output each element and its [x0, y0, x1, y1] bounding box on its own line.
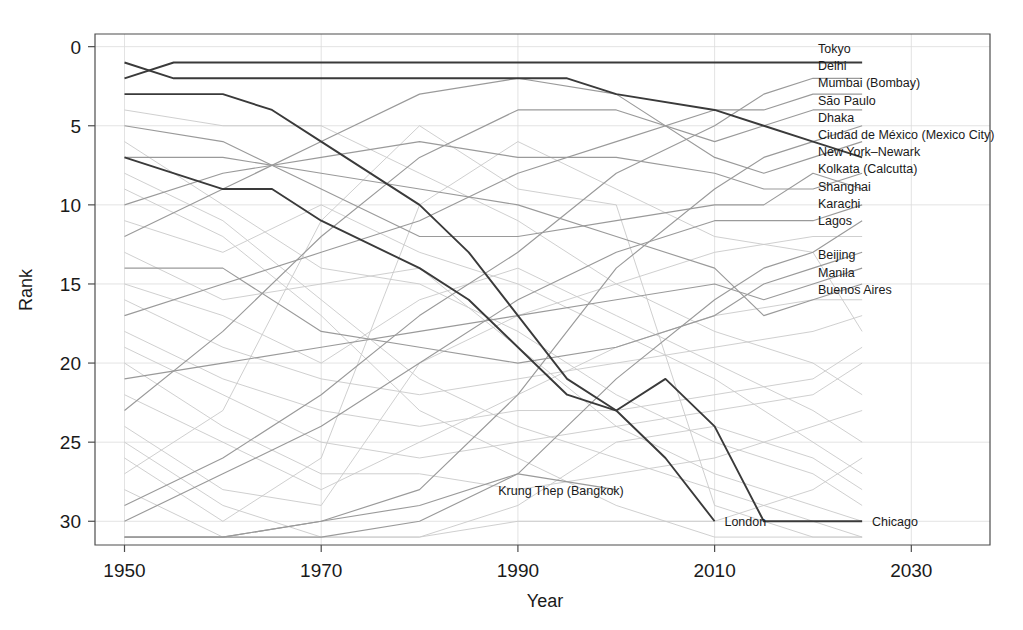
series-label[interactable]: Delhi — [818, 59, 847, 73]
series-line[interactable] — [125, 157, 863, 521]
y-axis-title: Rank — [16, 268, 36, 311]
series-lines-layer — [125, 62, 863, 537]
y-tick-label: 30 — [60, 511, 81, 532]
y-tick-label: 5 — [70, 116, 81, 137]
series-label[interactable]: Chicago — [872, 515, 918, 529]
series-line[interactable] — [125, 126, 863, 537]
y-tick-label: 15 — [60, 274, 81, 295]
series-line[interactable] — [125, 268, 863, 442]
series-line[interactable] — [125, 300, 863, 490]
series-line[interactable] — [125, 126, 863, 537]
y-tick-label: 0 — [70, 37, 81, 58]
series-label[interactable]: Lagos — [818, 214, 852, 228]
series-label[interactable]: Krung Thep (Bangkok) — [498, 484, 624, 498]
series-label[interactable]: Beijing — [818, 248, 856, 262]
series-label[interactable]: Manila — [818, 266, 855, 280]
series-label[interactable]: London — [724, 515, 766, 529]
chart-canvas: 05101520253019501970199020102030 TokyoDe… — [0, 0, 1023, 630]
series-line[interactable] — [125, 173, 863, 537]
series-label[interactable]: Kolkata (Calcutta) — [818, 162, 917, 176]
series-label[interactable]: Ciudad de México (Mexico City) — [818, 128, 994, 142]
x-tick-label: 1990 — [497, 560, 539, 581]
series-label[interactable]: São Paulo — [818, 94, 876, 108]
y-tick-label: 25 — [60, 432, 81, 453]
series-line[interactable] — [125, 237, 863, 506]
series-label[interactable]: Buenos Aires — [818, 283, 892, 297]
series-line[interactable] — [125, 331, 863, 426]
series-label[interactable]: Shanghai — [818, 180, 871, 194]
series-line[interactable] — [125, 205, 863, 474]
series-label-layer: TokyoDelhiMumbai (Bombay)São PauloDhakaC… — [498, 42, 994, 529]
series-label[interactable]: New York–Newark — [818, 145, 921, 159]
y-tick-label: 10 — [60, 195, 81, 216]
y-tick-label: 20 — [60, 353, 81, 374]
x-tick-label: 2030 — [890, 560, 932, 581]
series-label[interactable]: Dhaka — [818, 111, 854, 125]
series-line[interactable] — [125, 110, 863, 411]
x-tick-label: 2010 — [693, 560, 735, 581]
x-tick-label: 1950 — [103, 560, 145, 581]
series-label[interactable]: Mumbai (Bombay) — [818, 76, 920, 90]
series-line[interactable] — [125, 363, 863, 490]
series-label[interactable]: Tokyo — [818, 42, 851, 56]
series-line[interactable] — [125, 142, 863, 522]
series-line[interactable] — [125, 110, 863, 395]
rank-bump-chart: 05101520253019501970199020102030 TokyoDe… — [0, 0, 1023, 630]
x-tick-label: 1970 — [300, 560, 342, 581]
series-label[interactable]: Karachi — [818, 197, 860, 211]
series-line[interactable] — [125, 62, 863, 78]
series-line[interactable] — [125, 126, 863, 237]
series-line[interactable] — [125, 94, 715, 521]
x-axis-title: Year — [527, 591, 563, 611]
tick-label-layer: 05101520253019501970199020102030 — [60, 37, 933, 581]
series-line[interactable] — [125, 252, 863, 363]
